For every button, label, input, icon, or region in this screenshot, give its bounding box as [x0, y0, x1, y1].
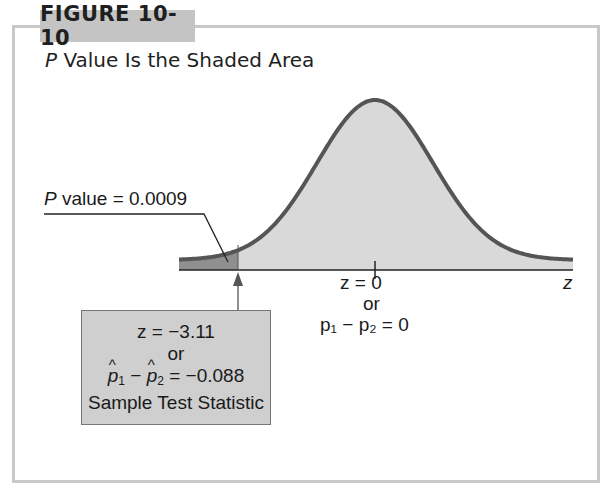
- center-or-label: or: [363, 293, 380, 315]
- test-statistic-box: z = −3.11 or p1 − p2 = −0.088 Sample Tes…: [81, 310, 271, 425]
- center-z-label: z = 0: [340, 272, 382, 294]
- p-value-label: P value = 0.0009: [44, 188, 187, 210]
- stat-diff-line: p1 − p2 = −0.088: [108, 365, 244, 392]
- p-value-leader-line: [44, 214, 228, 262]
- stat-or-line: or: [168, 343, 185, 365]
- stat-caption: Sample Test Statistic: [88, 392, 264, 414]
- stat-z-line: z = −3.11: [137, 321, 215, 343]
- center-diff-label: p₁ − p₂ = 0: [320, 314, 409, 336]
- axis-variable-label: z: [563, 272, 573, 294]
- arrow-head-icon: [233, 272, 243, 286]
- curve-area: [179, 100, 573, 270]
